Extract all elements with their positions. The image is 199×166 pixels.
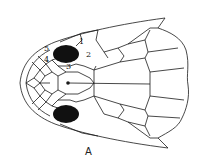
scale-label-3: 3: [66, 63, 71, 71]
scale-label-2: 2: [86, 51, 91, 59]
figure-caption: A: [85, 146, 92, 157]
head-scales-drawing: [0, 0, 199, 166]
scale-label-5: 5: [44, 45, 49, 53]
right-eye: [53, 105, 79, 123]
left-eye: [53, 45, 79, 63]
scale-label-1: 1: [79, 38, 84, 46]
scale-label-4: 4: [44, 56, 49, 64]
lizard-head-diagram: 1 2 3 4 5 A: [0, 0, 199, 166]
